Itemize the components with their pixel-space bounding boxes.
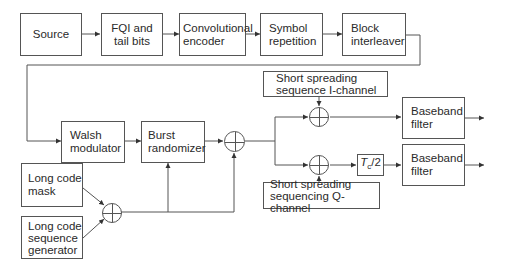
interleaver-label-line2: interleaver bbox=[351, 35, 405, 48]
interleaver-label-line1: Block bbox=[351, 22, 405, 35]
ssq-label-line1: Short spreading bbox=[270, 178, 379, 190]
xor-main-icon bbox=[224, 131, 245, 152]
conv-label-line2: encoder bbox=[183, 35, 253, 48]
bb2-label-line2: filter bbox=[411, 165, 463, 178]
lcmask-label-line1: Long code bbox=[28, 172, 82, 185]
walsh-label-line2: modulator bbox=[70, 142, 121, 155]
walsh-modulator-block: Walsh modulator bbox=[61, 121, 125, 163]
half-chip-delay-block: Tc/2 bbox=[357, 154, 384, 176]
source-label: Source bbox=[33, 28, 69, 41]
xor-q-channel-icon bbox=[309, 155, 329, 175]
conv-label-line1: Convolutional bbox=[183, 22, 253, 35]
xor-i-channel-icon bbox=[309, 107, 329, 127]
bb2-label-line1: Baseband bbox=[411, 152, 463, 165]
baseband-filter-i-block: Baseband filter bbox=[402, 97, 465, 139]
walsh-label-line1: Walsh bbox=[70, 129, 121, 142]
ssi-label-line2: sequence I-channel bbox=[276, 84, 376, 96]
lcmask-label-line2: mask bbox=[28, 185, 82, 198]
source-block: Source bbox=[20, 13, 82, 56]
long-code-generator-block: Long code sequence generator bbox=[21, 216, 83, 259]
ssi-label-line1: Short spreading bbox=[276, 72, 376, 84]
short-spreading-q-block: Short spreading sequencing Q-channel bbox=[263, 182, 380, 209]
xor-long-code-icon bbox=[102, 203, 122, 223]
burst-label-line1: Burst bbox=[148, 129, 206, 142]
burst-randomizer-block: Burst randomizer bbox=[141, 121, 205, 163]
block-interleaver-block: Block interleaver bbox=[342, 13, 406, 56]
baseband-filter-q-block: Baseband filter bbox=[402, 144, 465, 186]
symrep-label-line1: Symbol bbox=[269, 22, 316, 35]
fqi-label-line2: tail bits bbox=[111, 35, 153, 48]
ssq-label-line2: sequencing Q-channel bbox=[270, 190, 379, 214]
burst-label-line2: randomizer bbox=[148, 142, 206, 155]
convolutional-encoder-block: Convolutional encoder bbox=[179, 13, 246, 56]
lcgen-label-line3: generator bbox=[28, 244, 82, 256]
symbol-repetition-block: Symbol repetition bbox=[260, 13, 323, 56]
short-spreading-i-block: Short spreading sequence I-channel bbox=[263, 71, 388, 97]
bb1-label-line1: Baseband bbox=[411, 105, 463, 118]
delay-label: Tc/2 bbox=[360, 156, 381, 173]
lcgen-label-line2: sequence bbox=[28, 232, 82, 244]
bb1-label-line2: filter bbox=[411, 118, 463, 131]
symrep-label-line2: repetition bbox=[269, 35, 316, 48]
fqi-label-line1: FQI and bbox=[111, 22, 153, 35]
lcgen-label-line1: Long code bbox=[28, 220, 82, 232]
fqi-tail-bits-block: FQI and tail bits bbox=[101, 13, 163, 56]
long-code-mask-block: Long code mask bbox=[21, 163, 83, 207]
